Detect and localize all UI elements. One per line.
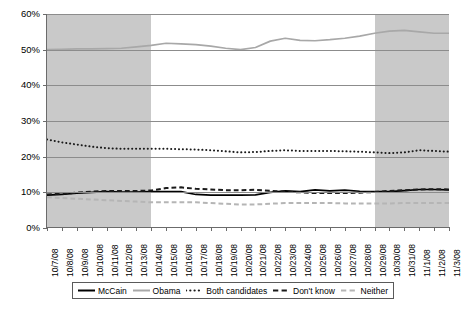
x-axis-label: 10/7/08	[50, 231, 60, 277]
legend-label: Obama	[153, 286, 181, 296]
legend-item-don-t-know[interactable]: Don't know	[273, 286, 335, 296]
legend-label: Neither	[361, 286, 388, 296]
legend-item-mccain[interactable]: McCain	[78, 286, 127, 296]
y-axis-label: 60%	[2, 8, 40, 19]
legend-item-neither[interactable]: Neither	[341, 286, 388, 296]
y-axis-label: 40%	[2, 79, 40, 90]
x-axis-label: 11/1/08	[422, 231, 432, 277]
x-axis-label: 10/11/08	[110, 231, 120, 277]
gridline	[47, 121, 449, 122]
x-axis-label: 10/24/08	[303, 231, 313, 277]
y-axis-label: 50%	[2, 44, 40, 55]
y-tick	[43, 50, 47, 51]
y-tick	[43, 192, 47, 193]
legend-item-both-candidates[interactable]: Both candidates	[186, 286, 267, 296]
x-axis-label: 10/25/08	[318, 231, 328, 277]
x-axis-label: 10/29/08	[378, 231, 388, 277]
y-tick	[43, 85, 47, 86]
line-chart: 60%50%40%30%20%10%0% 10/7/0810/8/0810/9/…	[0, 0, 462, 310]
x-axis: 10/7/0810/8/0810/9/0810/10/0810/11/0810/…	[46, 231, 449, 279]
legend-label: Don't know	[293, 286, 335, 296]
x-axis-label: 10/20/08	[244, 231, 254, 277]
x-axis-label: 10/26/08	[333, 231, 343, 277]
x-axis-label: 10/16/08	[184, 231, 194, 277]
x-axis-label: 10/17/08	[199, 231, 209, 277]
legend-swatch-icon	[341, 287, 358, 294]
y-tick	[43, 157, 47, 158]
x-axis-label: 10/21/08	[258, 231, 268, 277]
y-tick	[43, 121, 47, 122]
x-axis-label: 10/15/08	[169, 231, 179, 277]
x-axis-label: 10/18/08	[214, 231, 224, 277]
x-axis-label: 10/30/08	[392, 231, 402, 277]
gridline	[47, 50, 449, 51]
y-axis-label: 20%	[2, 151, 40, 162]
x-axis-label: 10/27/08	[348, 231, 358, 277]
x-axis-label: 10/12/08	[124, 231, 134, 277]
legend-swatch-icon	[133, 287, 150, 294]
series-line-neither	[47, 197, 449, 204]
series-line-obama	[47, 30, 449, 49]
y-axis-label: 0%	[2, 222, 40, 233]
gridline	[47, 192, 449, 193]
legend-swatch-icon	[273, 287, 290, 294]
gridline	[47, 157, 449, 158]
x-axis-label: 10/28/08	[363, 231, 373, 277]
legend-swatch-icon	[186, 287, 203, 294]
y-axis-label: 30%	[2, 115, 40, 126]
x-axis-label: 10/22/08	[273, 231, 283, 277]
legend-label: Both candidates	[206, 286, 267, 296]
x-axis-label: 11/2/08	[437, 231, 447, 277]
legend-swatch-icon	[78, 287, 95, 294]
x-axis-label: 10/19/08	[229, 231, 239, 277]
chart-legend: McCainObamaBoth candidatesDon't knowNeit…	[72, 282, 394, 299]
series-line-both-candidates	[47, 140, 449, 154]
y-tick	[43, 14, 47, 15]
x-axis-label: 10/14/08	[154, 231, 164, 277]
x-axis-label: 10/31/08	[407, 231, 417, 277]
x-axis-label: 10/8/08	[65, 231, 75, 277]
x-tick	[449, 227, 450, 231]
x-axis-label: 10/9/08	[80, 231, 90, 277]
legend-label: McCain	[98, 286, 127, 296]
x-axis-label: 10/23/08	[288, 231, 298, 277]
x-axis-label: 10/10/08	[95, 231, 105, 277]
plot-area	[46, 14, 449, 228]
y-axis-label: 10%	[2, 186, 40, 197]
x-axis-label: 10/13/08	[139, 231, 149, 277]
gridline	[47, 85, 449, 86]
legend-item-obama[interactable]: Obama	[133, 286, 181, 296]
x-axis-label: 11/3/08	[452, 231, 462, 277]
